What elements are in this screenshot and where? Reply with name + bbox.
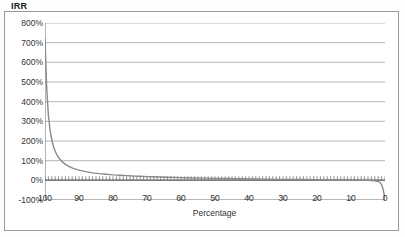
y-axis-tick-label: 200% (21, 136, 43, 146)
y-axis-tick-label: 100% (21, 156, 43, 166)
x-axis-title: Percentage (0, 208, 405, 218)
data-series-irr (45, 39, 385, 200)
y-axis-tick-label: 300% (21, 116, 43, 126)
x-axis-tick-label: 100 (38, 193, 52, 203)
chart-figure: IRR 800%700%600%500%400%300%200%100%0%-1… (0, 0, 405, 237)
x-axis-tick-label: 90 (74, 193, 83, 203)
x-axis-tick-labels: 1009080706050403020100 (45, 193, 385, 207)
y-axis-tick-labels: 800%700%600%500%400%300%200%100%0%-100% (0, 23, 43, 200)
x-axis-tick-label: 40 (244, 193, 253, 203)
page-title: IRR (11, 1, 27, 11)
plot-area (45, 23, 385, 200)
x-axis-tick-label: 50 (210, 193, 219, 203)
y-axis-tick-label: 800% (21, 18, 43, 28)
x-axis-tick-label: 70 (142, 193, 151, 203)
x-axis-tick-label: 20 (312, 193, 321, 203)
x-axis-tick-label: 30 (278, 193, 287, 203)
gridlines (45, 23, 385, 180)
y-axis-tick-label: 700% (21, 38, 43, 48)
x-axis-tick-label: 80 (108, 193, 117, 203)
x-axis-tick-label: 10 (346, 193, 355, 203)
x-axis-tick-label: 60 (176, 193, 185, 203)
y-axis-tick-label: 600% (21, 57, 43, 67)
y-axis-tick-label: 400% (21, 97, 43, 107)
x-axis-tick-label: 0 (383, 193, 388, 203)
y-axis-tick-label: 500% (21, 77, 43, 87)
y-axis-tick-label: 0% (31, 175, 43, 185)
chart-canvas (45, 23, 385, 200)
x-axis-title-label: Percentage (169, 208, 236, 218)
